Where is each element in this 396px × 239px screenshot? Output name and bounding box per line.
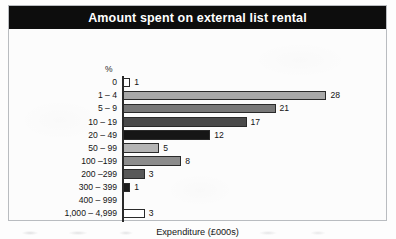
category-label: 100 –199	[9, 157, 117, 166]
bar-and-value: 1	[123, 76, 139, 89]
bar-row: 01	[9, 76, 386, 89]
category-label: 300 – 399	[9, 183, 117, 192]
bar-and-value: 17	[123, 115, 260, 128]
bar	[123, 78, 130, 88]
category-label: 400 – 999	[9, 196, 117, 205]
bar-and-value: 3	[123, 207, 154, 220]
bar-row: 1,000 – 4,9993	[9, 207, 386, 220]
bar	[123, 156, 181, 166]
bar-value-label: 17	[251, 118, 261, 127]
bar-value-label: 21	[280, 104, 290, 113]
bar-and-value: 21	[123, 102, 289, 115]
category-label: 0	[9, 78, 117, 87]
bar	[123, 117, 247, 127]
category-label: 20 – 49	[9, 131, 117, 140]
plot-area: % 011 – 4285 – 92110 – 191720 – 491250 –…	[9, 29, 386, 220]
figure-container: Amount spent on external list rental % 0…	[0, 0, 396, 239]
category-label: 1 – 4	[9, 91, 117, 100]
chart-title-banner: Amount spent on external list rental	[9, 6, 386, 29]
percent-axis-label: %	[105, 64, 113, 74]
chart-title: Amount spent on external list rental	[88, 11, 307, 25]
bar	[123, 143, 159, 153]
bar-and-value: 1	[123, 181, 139, 194]
category-label: 200 –299	[9, 170, 117, 179]
category-label: 10 – 19	[9, 118, 117, 127]
bar-value-label: 12	[214, 131, 224, 140]
bar	[123, 91, 326, 101]
bar-rows: 011 – 4285 – 92110 – 191720 – 491250 – 9…	[9, 76, 386, 220]
bar-value-label: 1	[134, 78, 139, 87]
bar	[123, 209, 145, 219]
bar-and-value: 8	[123, 155, 190, 168]
bar	[123, 169, 145, 179]
bar-and-value: 28	[123, 89, 340, 102]
bar	[123, 183, 130, 193]
bar-row: 50 – 995	[9, 141, 386, 154]
bar-value-label: 28	[330, 91, 340, 100]
bar-and-value: 12	[123, 128, 224, 141]
bar-row: 200 –2993	[9, 168, 386, 181]
scan-artifact-strip	[0, 228, 396, 239]
bar-row: 400 – 999	[9, 194, 386, 207]
bar-value-label: 3	[149, 170, 154, 179]
bar-and-value: 3	[123, 168, 154, 181]
bar-value-label: 3	[149, 209, 154, 218]
bar-value-label: 1	[134, 183, 139, 192]
bar-and-value: 5	[123, 141, 168, 154]
bar-row: 20 – 4912	[9, 128, 386, 141]
bar-value-label: 5	[163, 144, 168, 153]
bar-row: 10 – 1917	[9, 115, 386, 128]
category-label: 5 – 9	[9, 104, 117, 113]
bar	[123, 104, 276, 114]
bar-value-label: 8	[185, 157, 190, 166]
category-label: 50 – 99	[9, 144, 117, 153]
category-label: 1,000 – 4,999	[9, 209, 117, 218]
bar-row: 5 – 921	[9, 102, 386, 115]
bar-row: 300 – 3991	[9, 181, 386, 194]
bar-row: 1 – 428	[9, 89, 386, 102]
bar-row: 100 –1998	[9, 155, 386, 168]
bar	[123, 130, 210, 140]
